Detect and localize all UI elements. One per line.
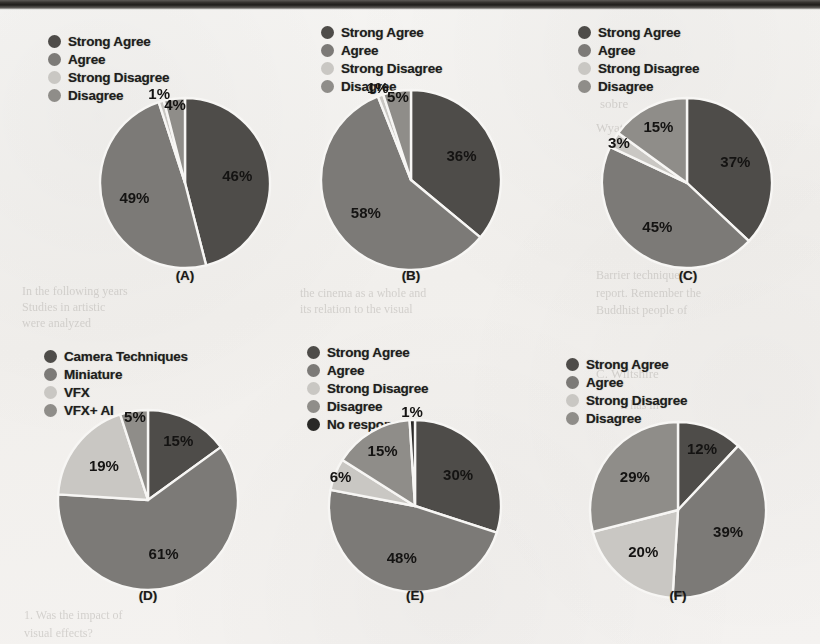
legend-item-label: Agree	[327, 363, 364, 378]
legend-item-label: Strong Agree	[598, 25, 681, 40]
pie-slice-value-label: 29%	[620, 468, 650, 485]
pie-slice-value-label: 15%	[368, 442, 398, 459]
pie-slice-value-label: 15%	[643, 118, 673, 135]
panel-caption: (A)	[155, 268, 215, 283]
legend-item: Agree	[307, 362, 428, 379]
pie-slice-value-label: 39%	[713, 523, 743, 540]
pie-slice-value-label: 37%	[720, 153, 750, 170]
chart-panel-d: Camera TechniquesMiniatureVFXVFX+ AI15%6…	[0, 322, 273, 644]
legend-item-label: Agree	[341, 43, 378, 58]
panel-caption: (B)	[381, 268, 441, 283]
pie-slice-value-label: 1%	[367, 79, 389, 96]
legend-item-label: Strong Agree	[68, 34, 151, 49]
legend-item: Agree	[48, 51, 169, 68]
legend-item-label: Strong Agree	[586, 357, 669, 372]
legend-swatch-circle-icon	[307, 364, 320, 377]
panel-caption: (D)	[118, 588, 178, 603]
pie-slice-value-label: 19%	[89, 457, 119, 474]
legend-item-label: Agree	[68, 52, 105, 67]
chart-panel-b: Strong AgreeAgreeStrong DisagreeDisagree…	[273, 0, 546, 322]
legend-swatch-circle-icon	[578, 26, 591, 39]
legend-item: Agree	[321, 42, 442, 59]
legend-swatch-circle-icon	[44, 368, 57, 381]
legend-swatch-circle-icon	[321, 26, 334, 39]
pie-slice-value-label: 58%	[351, 204, 381, 221]
pie-chart: 46%49%1%4%	[74, 72, 296, 294]
pie-chart: 37%45%3%15%	[576, 72, 798, 294]
legend-swatch-circle-icon	[48, 71, 61, 84]
legend-swatch-circle-icon	[566, 358, 579, 371]
legend-swatch-circle-icon	[48, 35, 61, 48]
legend-swatch-circle-icon	[566, 376, 579, 389]
pie-slice-value-label: 36%	[446, 147, 476, 164]
legend-item: Strong Agree	[566, 356, 687, 373]
pie-slice-value-label: 3%	[608, 134, 630, 151]
legend-swatch-circle-icon	[44, 350, 57, 363]
panel-caption: (F)	[648, 588, 708, 603]
legend-item-label: Strong Agree	[327, 345, 410, 360]
pie-slice-value-label: 15%	[163, 432, 193, 449]
legend-item-label: Miniature	[64, 367, 122, 382]
chart-panel-c: Strong AgreeAgreeStrong DisagreeDisagree…	[546, 0, 819, 322]
pie-slice-value-label: 12%	[687, 440, 717, 457]
pie-slice-value-label: 45%	[642, 218, 672, 235]
pie-slice-value-label: 5%	[124, 408, 146, 425]
pie-slice-value-label: 30%	[443, 466, 473, 483]
pie-chart-grid: Strong AgreeAgreeStrong DisagreeDisagree…	[0, 0, 820, 644]
legend-item-label: Agree	[598, 43, 635, 58]
legend-item-label: Camera Techniques	[64, 349, 188, 364]
pie-slice-value-label: 61%	[149, 545, 179, 562]
legend-swatch-circle-icon	[307, 346, 320, 359]
legend-item: Strong Agree	[48, 33, 169, 50]
legend-item: Miniature	[44, 366, 188, 383]
pie-chart: 15%61%19%5%	[32, 384, 264, 616]
legend-item-label: Agree	[586, 375, 623, 390]
scanned-page: sobreWyattBarrier techniquesreport. Reme…	[0, 0, 820, 644]
legend-item: Strong Agree	[578, 24, 699, 41]
legend-swatch-circle-icon	[48, 89, 61, 102]
pie-slice-value-label: 6%	[330, 468, 352, 485]
pie-slice-value-label: 20%	[628, 543, 658, 560]
legend-item: Strong Agree	[307, 344, 428, 361]
legend-item: Strong Agree	[321, 24, 442, 41]
panel-caption: (E)	[385, 588, 445, 603]
legend-swatch-circle-icon	[321, 44, 334, 57]
pie-slice-value-label: 46%	[222, 167, 252, 184]
legend-item: Camera Techniques	[44, 348, 188, 365]
chart-panel-a: Strong AgreeAgreeStrong DisagreeDisagree…	[0, 0, 273, 322]
legend-item: Agree	[566, 374, 687, 391]
chart-panel-f: Strong AgreeAgreeStrong DisagreeDisagree…	[546, 322, 819, 644]
panel-caption: (C)	[658, 268, 718, 283]
pie-chart: 30%48%6%15%1%	[303, 394, 527, 618]
pie-slice-value-label: 5%	[387, 88, 409, 105]
pie-slice-value-label: 49%	[119, 189, 149, 206]
legend-item: Agree	[578, 42, 699, 59]
pie-slice-value-label: 48%	[387, 549, 417, 566]
pie-chart: 36%58%1%5%	[295, 64, 527, 296]
legend-swatch-circle-icon	[578, 44, 591, 57]
legend-swatch-circle-icon	[48, 53, 61, 66]
legend-item-label: Strong Agree	[341, 25, 424, 40]
pie-slice-value-label: 1%	[401, 403, 423, 420]
pie-slice-value-label: 4%	[164, 96, 186, 113]
chart-panel-e: Strong AgreeAgreeStrong DisagreeDisagree…	[273, 322, 546, 644]
